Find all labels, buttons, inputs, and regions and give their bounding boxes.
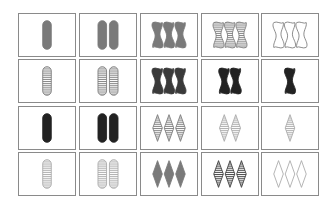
card-r1-c3[interactable] — [140, 13, 198, 57]
squiggle-icon — [296, 22, 307, 48]
diamond-icon — [176, 115, 186, 142]
card-r1-c1[interactable] — [18, 13, 76, 57]
diamond-icon — [164, 115, 174, 142]
diamond-icon — [274, 161, 284, 188]
oval-icon — [109, 114, 118, 143]
card-r4-c2[interactable] — [79, 152, 137, 196]
squiggle-icon — [152, 22, 163, 48]
squiggle-icon — [152, 68, 163, 94]
card-r2-c3[interactable] — [140, 59, 198, 103]
card-r2-c5[interactable] — [261, 59, 319, 103]
squiggle-icon — [284, 68, 295, 94]
diamond-icon — [153, 115, 163, 142]
squiggle-icon — [224, 22, 235, 48]
squiggle-icon — [219, 68, 230, 94]
oval-icon — [43, 160, 52, 189]
card-r4-c5[interactable] — [261, 152, 319, 196]
squiggle-icon — [163, 22, 174, 48]
squiggle-icon — [236, 22, 247, 48]
card-r3-c5[interactable] — [261, 106, 319, 150]
diamond-icon — [214, 161, 224, 188]
card-r4-c1[interactable] — [18, 152, 76, 196]
card-r3-c3[interactable] — [140, 106, 198, 150]
oval-icon — [109, 67, 118, 96]
oval-icon — [43, 21, 52, 50]
card-r1-c2[interactable] — [79, 13, 137, 57]
card-r3-c1[interactable] — [18, 106, 76, 150]
card-r2-c1[interactable] — [18, 59, 76, 103]
card-r4-c3[interactable] — [140, 152, 198, 196]
oval-icon — [43, 67, 52, 96]
diamond-icon — [153, 161, 163, 188]
diamond-icon — [297, 161, 307, 188]
oval-icon — [109, 160, 118, 189]
oval-icon — [98, 114, 107, 143]
diamond-icon — [237, 161, 247, 188]
diamond-icon — [285, 115, 295, 142]
squiggle-icon — [230, 68, 241, 94]
card-r3-c4[interactable] — [201, 106, 259, 150]
set-game-board — [0, 0, 334, 210]
diamond-icon — [225, 161, 235, 188]
oval-icon — [98, 67, 107, 96]
card-r3-c2[interactable] — [79, 106, 137, 150]
oval-icon — [109, 21, 118, 50]
card-r4-c4[interactable] — [201, 152, 259, 196]
squiggle-icon — [175, 22, 186, 48]
oval-icon — [98, 160, 107, 189]
card-r2-c2[interactable] — [79, 59, 137, 103]
oval-icon — [98, 21, 107, 50]
squiggle-icon — [175, 68, 186, 94]
squiggle-icon — [284, 22, 295, 48]
diamond-icon — [285, 161, 295, 188]
card-r2-c4[interactable] — [201, 59, 259, 103]
card-r1-c5[interactable] — [261, 13, 319, 57]
diamond-icon — [220, 115, 230, 142]
oval-icon — [43, 114, 52, 143]
card-r1-c4[interactable] — [201, 13, 259, 57]
squiggle-icon — [213, 22, 224, 48]
squiggle-icon — [163, 68, 174, 94]
diamond-icon — [231, 115, 241, 142]
squiggle-icon — [273, 22, 284, 48]
diamond-icon — [176, 161, 186, 188]
diamond-icon — [164, 161, 174, 188]
